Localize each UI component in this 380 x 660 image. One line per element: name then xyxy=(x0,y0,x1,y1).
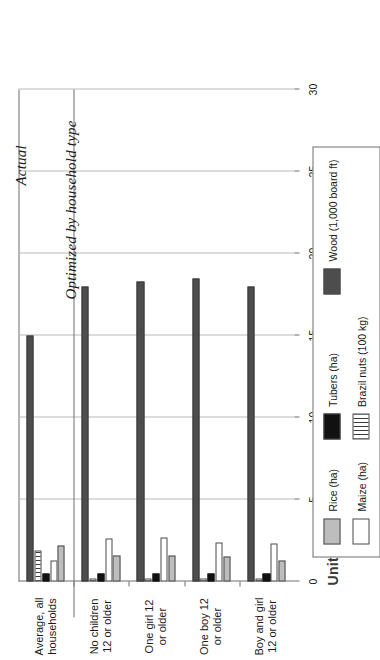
tick-5 xyxy=(294,498,299,499)
category-tick xyxy=(184,581,185,586)
category-label: Average, allhouseholds xyxy=(32,587,58,660)
bar xyxy=(144,578,151,581)
bar-group: One girl 12or older xyxy=(128,89,183,581)
legend-label: Rice (ha) xyxy=(326,468,338,511)
legend: Rice (ha)Tubers (ha)Wood (1,000 board ft… xyxy=(312,146,380,557)
category-label-line: No children xyxy=(87,587,100,660)
tick-0 xyxy=(294,580,299,581)
legend-label: Wood (1,000 board ft) xyxy=(326,159,338,261)
swatch-maize-icon xyxy=(352,518,369,544)
bar xyxy=(192,278,199,581)
category-label: Boy and girl12 or older xyxy=(252,587,278,660)
bar xyxy=(97,573,104,581)
legend-item: Tubers (ha) xyxy=(323,316,340,439)
legend-item: Wood (1,000 board ft) xyxy=(323,159,340,294)
bar xyxy=(89,578,96,581)
bar xyxy=(215,542,222,581)
legend-label: Brazil nuts (100 kg) xyxy=(355,316,367,406)
tick-25 xyxy=(294,170,299,171)
tick-label-0: 0 xyxy=(306,578,318,584)
legend-label: Maize (ha) xyxy=(355,461,367,511)
bar xyxy=(136,281,143,581)
bar-group: Boy and girl12 or older xyxy=(239,89,294,581)
bar-group: No children12 or older xyxy=(73,89,128,581)
category-label-line: or older xyxy=(155,587,168,660)
tick-20 xyxy=(294,252,299,253)
legend-item: Maize (ha) xyxy=(352,461,369,544)
category-label-line: 12 or older xyxy=(100,587,113,660)
category-label-line: households xyxy=(45,587,58,660)
bar xyxy=(34,550,41,581)
category-label: No children12 or older xyxy=(87,587,113,660)
bar xyxy=(160,537,167,581)
category-tick xyxy=(128,581,129,586)
legend-item: Brazil nuts (100 kg) xyxy=(352,316,369,439)
category-label-line: One boy 12 xyxy=(197,587,210,660)
legend-label: Tubers (ha) xyxy=(326,353,338,407)
category-label: One boy 12or older xyxy=(197,587,223,660)
swatch-tubers-icon xyxy=(323,413,340,439)
bar xyxy=(168,555,175,581)
tick-10 xyxy=(294,416,299,417)
bar xyxy=(278,560,285,581)
bar xyxy=(26,335,33,581)
category-label-line: Average, all xyxy=(32,587,45,660)
section-title-optimized: Optimized by household type xyxy=(62,120,79,299)
category-tick xyxy=(239,581,240,586)
swatch-rice-icon xyxy=(323,518,340,544)
swatch-brazil-icon xyxy=(352,413,369,439)
bar xyxy=(50,560,57,581)
bar xyxy=(152,573,159,581)
category-label-line: 12 or older xyxy=(265,587,278,660)
bar xyxy=(57,545,64,581)
bar xyxy=(247,286,254,581)
legend-item: Rice (ha) xyxy=(323,461,340,544)
bar xyxy=(255,578,262,581)
bar xyxy=(199,578,206,581)
bar-group: One boy 12or older xyxy=(184,89,239,581)
category-label-line: Boy and girl xyxy=(252,587,265,660)
tick-15 xyxy=(294,334,299,335)
section-title-actual: Actual xyxy=(12,145,29,185)
tick-label-30: 30 xyxy=(306,83,318,95)
category-label-line: One girl 12 xyxy=(142,587,155,660)
bar xyxy=(223,556,230,581)
bar xyxy=(207,573,214,581)
bar xyxy=(262,573,269,581)
category-label-line: or older xyxy=(210,587,223,660)
tick-30 xyxy=(294,88,299,89)
bar xyxy=(105,538,112,581)
plot-area: 051015202530 Average, allhouseholdsNo ch… xyxy=(18,89,294,581)
bar xyxy=(81,286,88,581)
bar xyxy=(270,543,277,581)
category-label: One girl 12or older xyxy=(142,587,168,660)
bar xyxy=(42,573,49,581)
swatch-wood-icon xyxy=(323,268,340,294)
bar xyxy=(112,555,119,581)
